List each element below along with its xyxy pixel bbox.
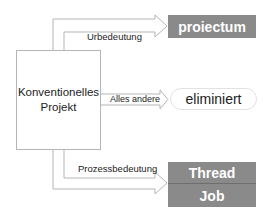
- target-label-job: Job: [200, 188, 225, 204]
- source-box-konventionelles-projekt: Konventionelles Projekt: [16, 50, 101, 150]
- target-label-proiectum: proiectum: [178, 19, 246, 35]
- target-box-proiectum: proiectum: [168, 15, 256, 38]
- target-label-thread: Thread: [189, 165, 236, 181]
- target-box-job: Job: [168, 184, 256, 207]
- target-box-thread: Thread: [168, 162, 256, 184]
- target-label-eliminiert: eliminiert: [185, 91, 241, 107]
- source-label-line2: Projekt: [41, 100, 77, 115]
- edge-label-urbedeutung: Urbedeutung: [87, 31, 142, 42]
- target-pill-eliminiert: eliminiert: [170, 88, 257, 110]
- edge-label-prozessbedeutung: Prozessbedeutung: [78, 163, 157, 174]
- source-label-line1: Konventionelles: [18, 85, 99, 100]
- edge-label-alles-andere: Alles andere: [110, 94, 160, 104]
- diagram-canvas: Konventionelles Projekt Urbedeutung Alle…: [0, 0, 272, 218]
